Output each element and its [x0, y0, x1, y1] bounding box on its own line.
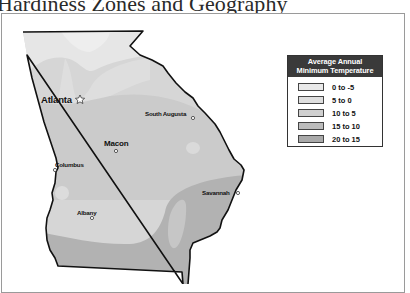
- legend-swatch: [298, 122, 324, 130]
- columbus-marker-icon: [53, 168, 56, 171]
- legend-title: Average Annual Minimum Temperature: [288, 56, 382, 77]
- south-augusta-marker-icon: [191, 116, 194, 119]
- legend-swatch: [298, 96, 324, 104]
- albany-marker-icon: [90, 216, 93, 219]
- legend-item: 15 to 10: [298, 121, 360, 131]
- city-label-atlanta: Atlanta: [41, 94, 72, 105]
- city-label-macon: Macon: [104, 139, 128, 148]
- savannah-marker-icon: [236, 191, 239, 194]
- city-label-south-augusta: South Augusta: [145, 110, 186, 117]
- legend-swatch: [298, 83, 324, 91]
- city-label-albany: Albany: [77, 209, 96, 216]
- city-label-columbus: Columbus: [55, 161, 84, 168]
- legend-item: 0 to -5: [298, 82, 354, 92]
- legend-swatch: [298, 135, 324, 143]
- legend-item: 10 to 5: [298, 108, 356, 118]
- legend-item: 5 to 0: [298, 95, 352, 105]
- city-label-savannah: Savannah: [202, 189, 230, 196]
- legend-swatch: [298, 109, 324, 117]
- macon-marker-icon: [114, 149, 117, 152]
- temperature-legend: Average Annual Minimum Temperature 0 to …: [287, 55, 383, 147]
- legend-item: 20 to 15: [298, 134, 360, 144]
